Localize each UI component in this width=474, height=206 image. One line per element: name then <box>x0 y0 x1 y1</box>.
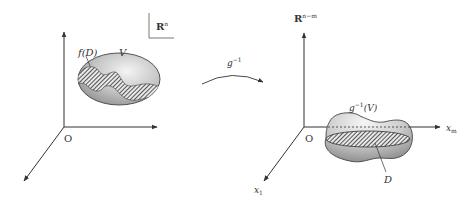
svg-text:g−1(V): g−1(V) <box>349 101 378 113</box>
rnm-exponent: n−m <box>302 12 317 19</box>
right-diagonal-axis <box>264 127 304 181</box>
mapping-exponent: −1 <box>233 56 242 63</box>
d-label: D <box>383 174 392 185</box>
svg-text:xm: xm <box>446 123 457 134</box>
x1-sub: 1 <box>259 189 263 196</box>
g-inv-v-exp: −1 <box>355 101 364 108</box>
svg-text:x1: x1 <box>254 185 263 196</box>
svg-text:g−1: g−1 <box>227 56 242 68</box>
right-origin-label: O <box>305 133 313 144</box>
xm-sub: m <box>451 127 457 134</box>
space-label-rn: Rn <box>149 13 174 38</box>
left-diagonal-axis <box>24 127 64 181</box>
set-d-disk <box>326 131 410 147</box>
mapping-arrow <box>202 75 263 84</box>
mapping-arrow-group: g−1 <box>202 56 263 84</box>
left-origin-label: O <box>64 133 72 144</box>
right-panel: Rn−m x1 O xm g−1(V) D <box>254 12 457 196</box>
diagram-canvas: O Rn f(D) V g−1 Rn−m x1 <box>0 0 474 206</box>
fd-label: f(D) <box>77 47 98 58</box>
svg-text:Rn−m: Rn−m <box>294 12 317 24</box>
rn-exponent: n <box>164 20 168 27</box>
svg-text:Rn: Rn <box>156 20 168 32</box>
g-inv-v-arg: (V) <box>364 103 378 113</box>
left-panel: O Rn f(D) V <box>24 13 174 181</box>
